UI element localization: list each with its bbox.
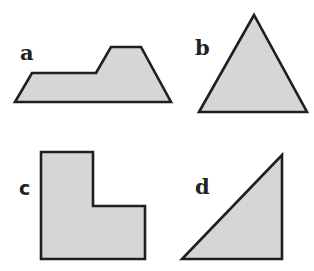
shape-c-l-shape: [41, 152, 145, 259]
shapes-svg: a b c d: [0, 0, 314, 271]
shape-a-polygon: [15, 47, 171, 102]
shape-a-label: a: [20, 40, 34, 65]
shape-b-triangle: [199, 15, 307, 112]
shapes-figure: a b c d: [0, 0, 314, 271]
shape-d-right-triangle: [182, 155, 282, 259]
shape-d-label: d: [195, 174, 210, 199]
shape-b-label: b: [195, 35, 210, 60]
shape-c-label: c: [19, 177, 30, 199]
